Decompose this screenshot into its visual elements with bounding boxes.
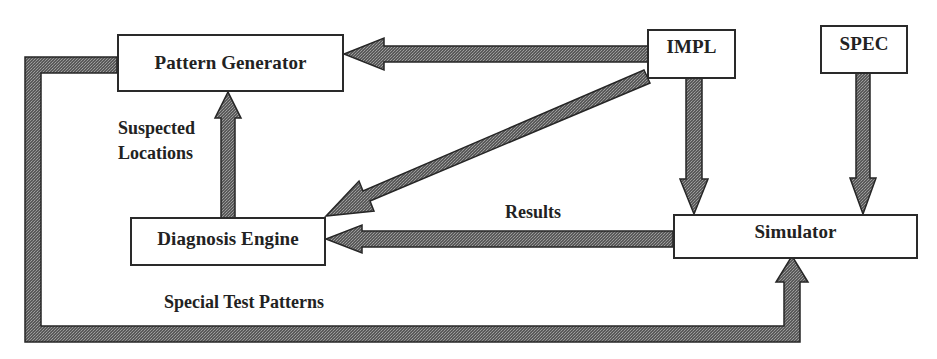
diagnosis-engine-label: Diagnosis Engine xyxy=(157,228,299,250)
impl-to-diagnosis-engine-arrow xyxy=(326,70,650,216)
impl-to-simulator-arrow xyxy=(680,78,708,214)
suspected-label-line2: Locations xyxy=(118,142,195,164)
pattern-generator-label: Pattern Generator xyxy=(154,52,306,74)
diagnosis-engine-node: Diagnosis Engine xyxy=(130,217,326,266)
suspected-locations-label: Suspected Locations xyxy=(118,117,195,164)
impl-label: IMPL xyxy=(666,36,716,58)
simulator-node: Simulator xyxy=(673,214,918,259)
impl-node: IMPL xyxy=(647,29,736,79)
results-label: Results xyxy=(505,201,561,223)
spec-label: SPEC xyxy=(840,33,889,55)
suspected-label-line1: Suspected xyxy=(118,117,195,139)
spec-to-simulator-arrow xyxy=(850,73,876,214)
special-test-patterns-label: Special Test Patterns xyxy=(164,291,324,313)
impl-to-pattern-generator-arrow xyxy=(344,38,648,70)
simulator-label: Simulator xyxy=(754,221,836,243)
pattern-generator-node: Pattern Generator xyxy=(117,34,344,92)
results-arrow xyxy=(326,225,673,253)
suspected-locations-arrow xyxy=(215,92,241,218)
spec-node: SPEC xyxy=(820,25,908,74)
